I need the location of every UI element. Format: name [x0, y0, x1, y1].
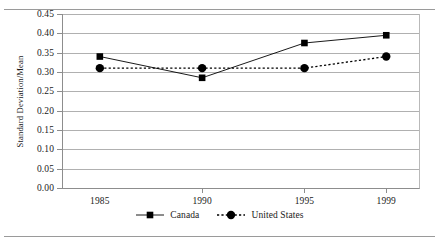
y-axis-tick — [57, 188, 62, 189]
x-axis-tick — [386, 188, 387, 193]
y-axis-tick — [57, 72, 62, 73]
data-point-marker — [301, 40, 308, 47]
y-axis-tick — [57, 130, 62, 131]
y-axis-tick-label: 0.10 — [37, 144, 54, 154]
legend-item-united-states[interactable]: United States — [216, 209, 303, 221]
data-point-marker — [199, 75, 206, 82]
y-axis-tick — [57, 33, 62, 34]
bottom-horizontal-rule — [4, 236, 435, 237]
y-axis-tick-label: 0.40 — [37, 28, 54, 38]
y-axis-tick-label: 0.00 — [37, 183, 54, 193]
y-axis-tick-label: 0.20 — [37, 106, 54, 116]
figure: Standard Deviation/Mean 0.450.400.350.30… — [0, 0, 439, 245]
data-point-marker — [383, 32, 390, 39]
legend-item-canada[interactable]: Canada — [135, 209, 199, 221]
y-axis-tick — [57, 149, 62, 150]
x-axis-tick-label: 1990 — [192, 196, 211, 206]
y-axis-tick-label: 0.30 — [37, 67, 54, 77]
x-axis-tick — [202, 188, 203, 193]
y-axis-tick-label: 0.25 — [37, 86, 54, 96]
y-axis-tick — [57, 14, 62, 15]
x-axis-tick-label: 1995 — [295, 196, 314, 206]
legend: CanadaUnited States — [0, 209, 439, 221]
series-line-canada — [100, 35, 386, 78]
legend-label: United States — [251, 210, 303, 220]
x-axis-tick-label: 1985 — [90, 196, 109, 206]
y-axis-title: Standard Deviation/Mean — [14, 14, 27, 189]
y-axis-tick-label: 0.15 — [37, 125, 54, 135]
y-axis-tick-label: 0.35 — [37, 48, 54, 58]
plot-area: 0.450.400.350.300.250.200.150.100.050.00… — [62, 14, 420, 189]
y-axis-tick — [57, 111, 62, 112]
legend-label: Canada — [170, 210, 199, 220]
data-point-marker — [382, 52, 390, 60]
series-line-united-states — [100, 57, 386, 69]
data-point-marker — [96, 64, 104, 72]
data-point-marker — [97, 53, 104, 60]
circle-marker — [216, 209, 246, 221]
x-axis-tick-label: 1999 — [377, 196, 396, 206]
data-series-layer — [63, 14, 419, 188]
x-axis-tick — [304, 188, 305, 193]
data-point-marker — [300, 64, 308, 72]
square-marker — [135, 209, 165, 221]
data-point-marker — [198, 64, 206, 72]
y-axis-tick — [57, 53, 62, 54]
y-axis-tick — [57, 169, 62, 170]
y-axis-tick — [57, 91, 62, 92]
y-axis-tick-label: 0.05 — [37, 164, 54, 174]
y-axis-tick-label: 0.45 — [37, 9, 54, 19]
top-horizontal-rule — [4, 9, 435, 10]
